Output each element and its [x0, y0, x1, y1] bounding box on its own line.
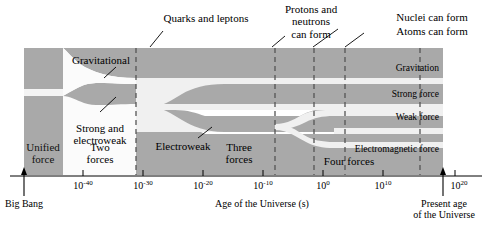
tick-base: 10	[253, 180, 263, 191]
tick-exp: 20	[461, 179, 468, 187]
label-electromagnetic-force-text: Electromagnetic force	[355, 144, 439, 154]
label-three-forces-line1: Three	[226, 141, 253, 153]
tick-label-1: 10-40	[73, 180, 92, 191]
tick-exp: -20	[203, 179, 212, 187]
label-three-forces: Three forces	[226, 141, 253, 166]
tick-label-2: 10-30	[133, 180, 152, 191]
band-strong-force	[63, 83, 443, 105]
leader-protons-neutrons	[272, 36, 285, 47]
band-upper-left	[24, 48, 63, 89]
tick-exp: -40	[83, 179, 92, 187]
label-unified-line1: Unified	[26, 141, 60, 153]
tick-base: 10	[316, 180, 326, 191]
callout-nuclei-text: Nuclei can form	[396, 11, 467, 23]
callout-quarks-and-leptons-text: Quarks and leptons	[164, 12, 249, 24]
present-age-line1: Present age	[413, 198, 475, 209]
tick-label-6: 1010	[375, 180, 392, 191]
callout-protons-line2: neutrons	[285, 15, 337, 27]
label-unified-force: Unified force	[26, 141, 60, 166]
sep-grav-strong	[205, 78, 443, 84]
tick-base: 10	[375, 180, 385, 191]
label-strong-ew-line1: Strong and	[73, 122, 126, 134]
label-electromagnetic-force: Electromagnetic force	[355, 144, 439, 154]
label-gravitation: Gravitation	[396, 63, 439, 73]
gap-left	[24, 89, 63, 96]
callout-atoms-can-form: Atoms can form	[396, 25, 467, 37]
force-unification-diagram: Quarks and leptons Protons and neutrons …	[0, 0, 492, 237]
callout-quarks-and-leptons: Quarks and leptons	[164, 12, 249, 24]
label-weak-force: Weak force	[396, 112, 439, 122]
label-two-forces: Two forces	[87, 141, 114, 166]
label-strong-force: Strong force	[392, 89, 439, 99]
tick-exp: 10	[385, 179, 392, 187]
tick-base: 10	[451, 180, 461, 191]
label-electroweak-text: Electroweak	[156, 140, 211, 152]
label-four-forces: Four forces	[324, 155, 374, 167]
tick-base: 10	[193, 180, 203, 191]
label-weak-force-text: Weak force	[396, 112, 439, 122]
callout-protons-line3: can form	[285, 28, 337, 40]
present-age-label: Present age of the Universe	[413, 198, 475, 220]
label-four-forces-text: Four forces	[324, 155, 374, 167]
label-gravitational: Gravitational	[72, 54, 130, 66]
label-gravitational-text: Gravitational	[72, 54, 130, 66]
callout-nuclei-can-form: Nuclei can form	[396, 11, 467, 23]
callout-protons-line1: Protons and	[285, 3, 337, 15]
sep-weak-em	[334, 128, 443, 134]
callout-atoms-text: Atoms can form	[396, 25, 467, 37]
label-gravitation-text: Gravitation	[396, 63, 439, 73]
axis-title-text: Age of the Universe (s)	[215, 198, 309, 209]
tick-exp: -30	[143, 179, 152, 187]
label-strong-force-text: Strong force	[392, 89, 439, 99]
label-two-forces-line2: forces	[87, 153, 114, 165]
label-unified-line2: force	[26, 153, 60, 165]
sep-strong-weak	[205, 104, 443, 110]
leader-atoms	[345, 33, 364, 47]
tick-label-3: 10-20	[193, 180, 212, 191]
tick-label-5: 100	[316, 180, 330, 191]
tick-base: 10	[73, 180, 83, 191]
label-electroweak: Electroweak	[156, 140, 211, 152]
label-two-forces-line1: Two	[87, 141, 114, 153]
big-bang-label-text: Big Bang	[5, 198, 43, 209]
callout-protons-and-neutrons: Protons and neutrons can form	[285, 3, 337, 40]
tick-base: 10	[133, 180, 143, 191]
tick-exp: 0	[326, 179, 330, 187]
tick-label-7: 1020	[451, 180, 468, 191]
present-age-line2: of the Universe	[413, 209, 475, 220]
axis-title: Age of the Universe (s)	[215, 198, 309, 209]
tick-label-4: 10-10	[253, 180, 272, 191]
label-three-forces-line2: forces	[226, 153, 253, 165]
tick-exp: -10	[263, 179, 272, 187]
leader-quarks-leptons	[150, 31, 163, 47]
big-bang-label: Big Bang	[5, 198, 43, 209]
